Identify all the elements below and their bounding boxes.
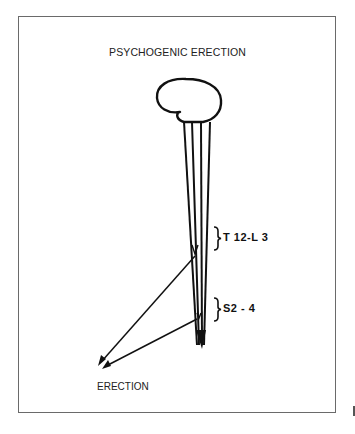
bracket-t12-l3 — [214, 227, 221, 250]
label-t12-l3: T 12-L 3 — [223, 231, 268, 243]
label-erection: ERECTION — [97, 381, 149, 392]
diagram-drawing — [0, 0, 355, 434]
spinal-cord-tracts — [184, 122, 210, 345]
arrow-from-t12-l3 — [98, 256, 195, 366]
label-s2-4: S2 - 4 — [223, 302, 255, 314]
bracket-s2-4 — [214, 298, 221, 321]
brain-icon — [157, 79, 221, 122]
